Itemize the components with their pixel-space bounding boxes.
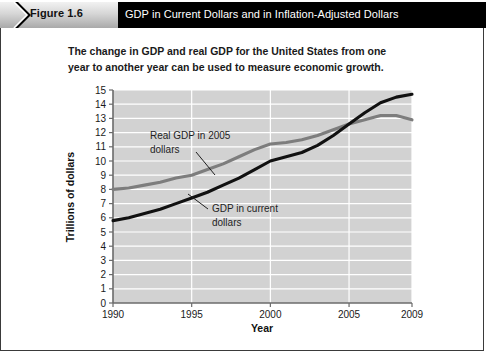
y-tick-label: 3: [100, 255, 106, 266]
x-tick-label: 1995: [181, 309, 204, 320]
y-tick-label: 15: [95, 85, 107, 96]
y-axis-tick-labels: 0123456789101112131415: [95, 85, 107, 309]
y-tick-label: 2: [100, 269, 106, 280]
y-tick-label: 4: [100, 241, 106, 252]
y-tick-label: 7: [100, 198, 106, 209]
y-tick-label: 11: [96, 141, 107, 152]
y-tick-label: 14: [95, 99, 107, 110]
y-tick-label: 12: [95, 127, 107, 138]
y-axis-title: Trillions of dollars: [64, 152, 76, 243]
y-tick-label: 8: [100, 184, 106, 195]
x-axis-tick-labels: 19901995200020052009: [102, 309, 424, 320]
x-axis-title: Year: [251, 322, 273, 334]
y-tick-label: 5: [100, 227, 106, 238]
chart-svg: 0123456789101112131415 19901995200020052…: [0, 0, 486, 353]
real-gdp-annotation-line1: Real GDP in 2005: [150, 130, 231, 141]
figure-card: Figure 1.6 GDP in Current Dollars and in…: [0, 0, 486, 353]
x-tick-label: 2009: [401, 309, 424, 320]
x-tick-label: 2000: [259, 309, 282, 320]
gdp-line-chart: 0123456789101112131415 19901995200020052…: [0, 0, 486, 353]
current-gdp-annotation-line2: dollars: [212, 217, 241, 228]
y-tick-label: 9: [100, 170, 106, 181]
x-tick-label: 1990: [102, 309, 125, 320]
y-tick-label: 10: [95, 156, 107, 167]
x-tick-label: 2005: [338, 309, 361, 320]
y-tick-label: 13: [95, 113, 107, 124]
current-gdp-annotation-line1: GDP in current: [212, 203, 278, 214]
plot-background: [113, 90, 412, 303]
y-tick-label: 1: [100, 283, 106, 294]
real-gdp-annotation-line2: dollars: [150, 144, 179, 155]
y-tick-label: 6: [100, 212, 106, 223]
y-tick-label: 0: [100, 298, 106, 309]
